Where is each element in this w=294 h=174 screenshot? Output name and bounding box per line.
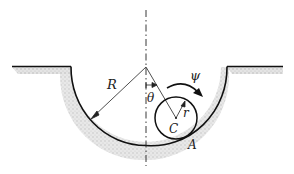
label-psi: ψ [190, 68, 201, 83]
label-R: R [106, 77, 117, 92]
label-A: A [187, 138, 197, 152]
label-C: C [169, 122, 178, 136]
psi-arrow [167, 84, 203, 97]
label-theta: θ [147, 91, 155, 105]
radius-R-arrow [91, 67, 146, 119]
label-r: r [183, 106, 190, 120]
diagram-canvas: R θ ψ r C A [0, 0, 294, 174]
diagram-svg: R θ ψ r C A [0, 0, 294, 174]
ground-surface [12, 67, 283, 146]
